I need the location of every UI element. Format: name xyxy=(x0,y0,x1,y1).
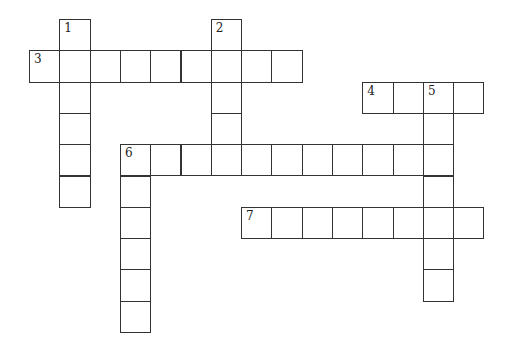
crossword-cell[interactable]: 4 xyxy=(362,82,393,114)
clue-number: 6 xyxy=(125,147,133,159)
crossword-cell[interactable]: 2 xyxy=(211,19,242,51)
crossword-cell[interactable] xyxy=(362,144,393,176)
crossword-cell[interactable] xyxy=(211,82,242,114)
crossword-cell[interactable] xyxy=(423,207,454,239)
crossword-cell[interactable]: 1 xyxy=(59,19,90,51)
crossword-cell[interactable] xyxy=(241,50,272,82)
crossword-cell[interactable] xyxy=(302,207,333,239)
crossword-cell[interactable] xyxy=(211,50,242,82)
crossword-cell[interactable] xyxy=(332,144,363,176)
crossword-cell[interactable]: 5 xyxy=(423,82,454,114)
crossword-cell[interactable] xyxy=(150,50,181,82)
clue-number: 1 xyxy=(64,22,72,34)
crossword-cell[interactable] xyxy=(362,207,393,239)
crossword-cell[interactable] xyxy=(393,207,424,239)
crossword-cell[interactable] xyxy=(423,176,454,208)
crossword-cell[interactable] xyxy=(120,176,151,208)
crossword-cell[interactable] xyxy=(120,207,151,239)
clue-number: 3 xyxy=(34,53,42,65)
crossword-cell[interactable] xyxy=(120,301,151,333)
crossword-cell[interactable] xyxy=(271,144,302,176)
crossword-cell[interactable] xyxy=(302,144,333,176)
crossword-cell[interactable] xyxy=(90,50,121,82)
crossword-cell[interactable] xyxy=(393,144,424,176)
crossword-cell[interactable] xyxy=(241,144,272,176)
crossword-cell[interactable] xyxy=(423,238,454,270)
crossword-cell[interactable] xyxy=(211,144,242,176)
crossword-cell[interactable] xyxy=(453,207,484,239)
crossword-cell[interactable] xyxy=(59,82,90,114)
crossword-cell[interactable] xyxy=(59,50,90,82)
crossword-cell[interactable]: 7 xyxy=(241,207,272,239)
crossword-cell[interactable] xyxy=(59,176,90,208)
crossword-cell[interactable] xyxy=(423,269,454,301)
crossword-cell[interactable] xyxy=(59,113,90,145)
crossword-cell[interactable]: 3 xyxy=(29,50,60,82)
clue-number: 2 xyxy=(216,22,224,34)
crossword-cell[interactable] xyxy=(423,113,454,145)
crossword-cell[interactable] xyxy=(181,50,212,82)
crossword-cell[interactable] xyxy=(120,269,151,301)
crossword-cell[interactable] xyxy=(271,207,302,239)
crossword-cell[interactable] xyxy=(120,238,151,270)
crossword-cell[interactable] xyxy=(332,207,363,239)
crossword-cell[interactable] xyxy=(59,144,90,176)
clue-number: 7 xyxy=(246,210,254,222)
crossword-cell[interactable] xyxy=(211,113,242,145)
crossword-cell[interactable] xyxy=(271,50,302,82)
crossword-cell[interactable] xyxy=(453,82,484,114)
clue-number: 4 xyxy=(367,85,375,97)
crossword-cell[interactable] xyxy=(150,144,181,176)
clue-number: 5 xyxy=(428,85,436,97)
crossword-cell[interactable] xyxy=(423,144,454,176)
crossword-cell[interactable]: 6 xyxy=(120,144,151,176)
crossword-cell[interactable] xyxy=(181,144,212,176)
crossword-cell[interactable] xyxy=(120,50,151,82)
crossword-cell[interactable] xyxy=(393,82,424,114)
